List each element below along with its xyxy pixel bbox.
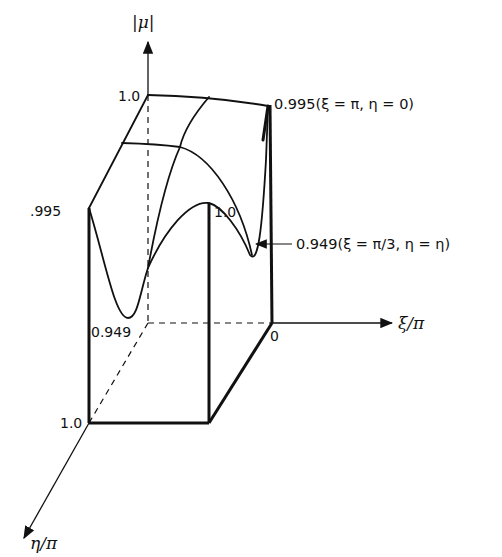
left-edge-tick: .995: [30, 204, 61, 218]
front-peak-tick: 1.0: [214, 205, 236, 219]
box-frame: [89, 105, 272, 423]
eta-axis: [24, 423, 89, 538]
eta-one-tick: 1.0: [60, 416, 82, 430]
z-axis-label: |μ|: [132, 14, 155, 31]
annotation-max: 0.995(ξ = π, η = 0): [274, 97, 414, 112]
annotation-min: 0.949(ξ = π/3, η = η): [296, 237, 450, 252]
z-top-tick: 1.0: [118, 89, 140, 103]
surface-curves: [89, 95, 268, 318]
surface-plot: [0, 0, 502, 557]
inner-min-tick: 0.949: [91, 325, 131, 339]
eta-axis-label: η/π: [30, 535, 57, 552]
xi-axis-label: ξ/π: [398, 315, 424, 332]
origin-tick: 0: [270, 329, 279, 343]
